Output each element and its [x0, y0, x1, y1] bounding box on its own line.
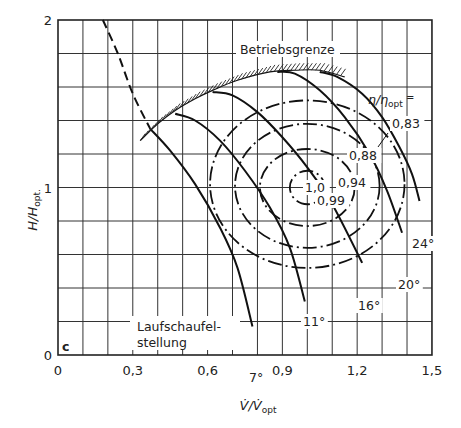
efficiency-label-0-88: 0,88 [349, 148, 377, 163]
x-tick-label: 0 [54, 363, 62, 378]
x-tick-label: 0,6 [197, 363, 218, 378]
y-tick-label: 0 [44, 348, 52, 363]
efficiency-label-0-99: 0,99 [317, 193, 345, 208]
operating-limit [103, 20, 346, 141]
x-tick-label: 0,3 [122, 363, 143, 378]
blade-label-7: 7° [249, 370, 263, 385]
surge-limit-dashed [103, 20, 150, 129]
blade-curve-7° [150, 129, 252, 327]
xlabel: V̇/V̇opt [240, 398, 277, 415]
blade-setting-label-1: Laufschaufel- [137, 319, 221, 334]
labels: H/Hopt. V̇/V̇opt c Betriebsgrenze η/ηopt… [25, 41, 437, 415]
x-tick-label: 1,5 [422, 363, 443, 378]
operating-limit-label: Betriebsgrenze [240, 42, 335, 57]
operating-limit-line [140, 70, 344, 141]
ylabel: H/Hopt. [25, 189, 42, 231]
blade-label-20: 20° [398, 277, 420, 292]
blade-setting-label-2: stellung [137, 335, 187, 350]
blade-label-11: 11° [303, 314, 325, 329]
efficiency-label-0-83: 0,83 [392, 116, 420, 131]
y-tick-label: 2 [44, 13, 52, 28]
subplot-letter: c [62, 339, 69, 354]
blade-label-24: 24° [412, 236, 434, 251]
y-tick-label: 1 [44, 181, 52, 196]
x-tick-label: 1,2 [347, 363, 368, 378]
efficiency-label-0-94: 0,94 [338, 175, 366, 190]
blade-label-16: 16° [358, 298, 380, 313]
x-tick-label: 0,9 [272, 363, 293, 378]
chart: 00,30,60,91,21,5012 H/Hopt. V̇/V̇opt c B… [0, 0, 461, 428]
